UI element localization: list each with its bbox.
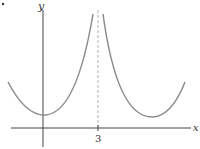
problem-marker — [2, 3, 4, 5]
function-graph: y x 3 — [0, 0, 200, 149]
x-axis-label: x — [193, 122, 199, 133]
curve-left-branch — [8, 14, 93, 115]
y-axis-label: y — [37, 0, 45, 13]
x-tick-label-3: 3 — [95, 133, 101, 144]
curve-right-branch — [103, 14, 185, 117]
